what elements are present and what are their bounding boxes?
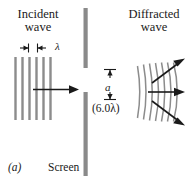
diffracted-wavefront-1: [138, 66, 140, 118]
wavelength-arrowheads: [24, 45, 43, 50]
slit-arrowhead-top: [107, 70, 112, 76]
slit-width-label: a: [105, 82, 111, 94]
wavelength-arrowhead-right: [38, 45, 43, 50]
wavelength-arrowhead-left: [24, 45, 29, 50]
barrier-top-segment: [84, 8, 88, 68]
diffracted-ray-center-arrowhead: [174, 88, 185, 97]
incident-ray-arrow: [33, 85, 79, 94]
incident-wavefronts: [16, 57, 51, 120]
diffracted-ray-arrows: [148, 59, 185, 126]
screen-label: Screen: [48, 161, 79, 173]
wavelength-label: λ: [55, 41, 60, 53]
diffracted-wave-label: Diffracted wave: [118, 8, 189, 34]
slit-width-value-label: (6.0λ): [92, 102, 120, 114]
slit-arrowhead-bottom: [107, 94, 112, 100]
panel-label: (a): [8, 161, 21, 173]
incident-wave-label: Incident wave: [2, 8, 74, 34]
incident-ray-arrowhead: [69, 85, 79, 94]
incident-wave-label-line2: wave: [2, 21, 74, 34]
barrier-bottom-segment: [84, 92, 88, 176]
diffracted-wave-label-line2: wave: [118, 21, 189, 34]
diffraction-figure: Incident wave Diffracted wave λ a (6.0λ)…: [0, 0, 189, 182]
diffracted-wavefront-2: [144, 65, 147, 120]
barrier-screen: [84, 8, 88, 176]
